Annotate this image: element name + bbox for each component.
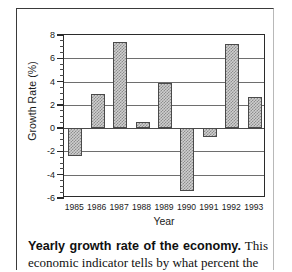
y-tick-minor: [60, 75, 64, 76]
y-tick-minor: [60, 110, 64, 111]
bar-1990: [180, 128, 194, 191]
y-tick-minor: [60, 133, 64, 134]
y-tick-label: 8: [50, 30, 55, 40]
figure-bar-chart: Growth Rate (%) 86420-2-4-6 198519861987…: [0, 0, 292, 226]
y-tick-minor: [60, 168, 64, 169]
y-tick-minor: [60, 93, 64, 94]
y-tick-minor: [60, 157, 64, 158]
y-tick-minor: [60, 180, 64, 181]
y-tick-major: [57, 197, 64, 198]
y-tick-minor: [60, 52, 64, 53]
x-tick-label-1987: 1987: [110, 202, 129, 212]
x-tick-label-1991: 1991: [199, 202, 218, 212]
bar-1987: [113, 42, 127, 128]
y-tick-minor: [60, 99, 64, 100]
bar-1989: [158, 83, 172, 128]
x-tick-label-1989: 1989: [154, 202, 173, 212]
bar-1985: [68, 128, 82, 156]
y-tick-major: [57, 81, 64, 82]
y-tick-minor: [60, 186, 64, 187]
bar-1986: [91, 94, 105, 128]
y-tick-major: [57, 127, 64, 128]
y-tick-minor: [60, 64, 64, 65]
y-tick-label: -6: [47, 193, 55, 203]
y-tick-minor: [60, 139, 64, 140]
gridline: [64, 151, 264, 152]
y-tick-minor: [60, 145, 64, 146]
y-tick-label: 6: [50, 53, 55, 63]
y-tick-label: 0: [50, 123, 55, 133]
zero-line: [64, 128, 264, 129]
y-tick-minor: [60, 116, 64, 117]
y-tick-label: -2: [47, 146, 55, 156]
y-tick-major: [57, 58, 64, 59]
y-tick-minor: [60, 192, 64, 193]
y-tick-label: 2: [50, 100, 55, 110]
plot-inner: [64, 35, 264, 196]
bar-1991: [203, 128, 217, 137]
y-tick-minor: [60, 69, 64, 70]
y-tick-major: [57, 104, 64, 105]
x-tick-label-1993: 1993: [244, 202, 263, 212]
x-tick-label-1985: 1985: [65, 202, 84, 212]
gridline: [64, 175, 264, 176]
y-tick-major: [57, 34, 64, 35]
y-tick-minor: [60, 46, 64, 47]
y-tick-minor: [60, 122, 64, 123]
bar-1993: [248, 97, 262, 128]
bar-1988: [136, 122, 150, 128]
figure-caption: Yearly growth rate of the economy. This …: [28, 238, 268, 270]
x-tick-label-1986: 1986: [87, 202, 106, 212]
y-tick-minor: [60, 163, 64, 164]
y-axis-title: Growth Rate (%): [26, 36, 38, 166]
y-tick-minor: [60, 87, 64, 88]
y-tick-label: -4: [47, 170, 55, 180]
x-tick-label-1988: 1988: [132, 202, 151, 212]
x-tick-label-1992: 1992: [222, 202, 241, 212]
y-tick-label: 4: [50, 77, 55, 87]
x-axis-title: Year: [63, 215, 265, 227]
x-tick-label-1990: 1990: [177, 202, 196, 212]
bar-1992: [225, 44, 239, 128]
y-tick-major: [57, 174, 64, 175]
y-tick-minor: [60, 40, 64, 41]
y-tick-major: [57, 151, 64, 152]
plot-area: 86420-2-4-6: [63, 34, 265, 197]
caption-lead: Yearly growth rate of the economy.: [28, 239, 241, 253]
